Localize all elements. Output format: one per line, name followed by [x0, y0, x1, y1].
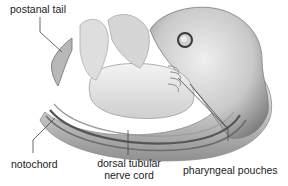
label-pharyngeal-pouches: pharyngeal pouches: [183, 164, 278, 176]
embryo-diagram: postanal tail notochord dorsal tubular n…: [0, 0, 288, 186]
label-nerve-cord-line1: dorsal tubular: [93, 157, 165, 169]
label-postanal-tail: postanal tail: [10, 3, 66, 15]
label-dorsal-tubular-nerve-cord: dorsal tubular nerve cord: [93, 157, 165, 181]
postanal-tail-leader: [40, 17, 62, 52]
label-nerve-cord-line2: nerve cord: [93, 169, 165, 181]
label-notochord: notochord: [11, 158, 58, 170]
